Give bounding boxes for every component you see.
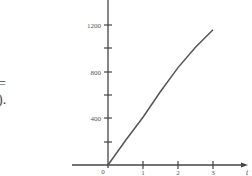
x-axis-arrow-icon <box>241 163 248 168</box>
x-tick-label-3: 3 <box>211 169 215 176</box>
x-tick-label-2: 2 <box>176 169 180 176</box>
data-curve <box>108 30 213 165</box>
y-tick-label-400: 400 <box>91 115 102 123</box>
x-axis-label: t <box>246 168 249 176</box>
x-tick-label-1: 1 <box>141 169 145 176</box>
origin-label: 0 <box>101 168 105 176</box>
y-tick-label-1200: 1200 <box>87 22 102 30</box>
y-tick-label-800: 800 <box>91 69 102 77</box>
line-chart: 1200 800 400 0 1 2 3 t <box>0 0 252 176</box>
